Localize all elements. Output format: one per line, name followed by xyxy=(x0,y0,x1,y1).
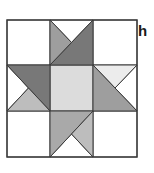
cell-top-left xyxy=(7,20,50,65)
cell-top-right xyxy=(93,20,137,65)
cell-middle-left xyxy=(7,65,50,111)
cell-bottom-right xyxy=(93,111,137,157)
cell-center xyxy=(50,65,93,111)
cell-middle-right xyxy=(93,65,137,111)
cell-bottom-left xyxy=(7,111,50,157)
cell-bottom-middle xyxy=(50,111,93,157)
quilt-block-diagram xyxy=(0,0,154,173)
cell-top-middle xyxy=(50,20,93,65)
figure-label: h xyxy=(138,23,147,38)
